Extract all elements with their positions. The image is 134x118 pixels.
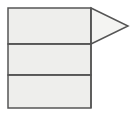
diagram-canvas <box>0 0 134 118</box>
band-bottom <box>8 75 91 108</box>
right-pointing-triangle-icon <box>91 8 128 44</box>
shape-diagram <box>0 0 134 118</box>
band-top <box>8 8 91 44</box>
band-middle <box>8 44 91 75</box>
